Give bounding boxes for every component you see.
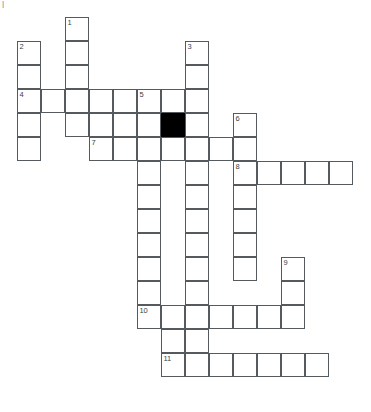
- crossword-cell[interactable]: 5: [137, 89, 161, 113]
- crossword-cell[interactable]: [185, 281, 209, 305]
- crossword-cell[interactable]: [113, 137, 137, 161]
- crossword-cell[interactable]: [185, 113, 209, 137]
- crossword-cell[interactable]: [185, 185, 209, 209]
- cell-number-4: 4: [20, 90, 24, 99]
- cell-number-9: 9: [284, 258, 288, 267]
- crossword-cell[interactable]: [137, 113, 161, 137]
- crossword-cell[interactable]: [185, 233, 209, 257]
- cell-number-7: 7: [92, 138, 96, 147]
- crossword-cell[interactable]: [329, 161, 353, 185]
- crossword-cell[interactable]: [113, 89, 137, 113]
- cell-number-2: 2: [20, 42, 24, 51]
- crossword-cell[interactable]: [185, 305, 209, 329]
- crossword-cell[interactable]: [305, 161, 329, 185]
- crossword-cell[interactable]: 6: [233, 113, 257, 137]
- crossword-cell[interactable]: 10: [137, 305, 161, 329]
- crossword-cell[interactable]: [65, 113, 89, 137]
- crossword-cell[interactable]: [17, 65, 41, 89]
- crossword-cell[interactable]: [161, 137, 185, 161]
- crossword-cell[interactable]: 9: [281, 257, 305, 281]
- crossword-cell[interactable]: 8: [233, 161, 257, 185]
- crossword-cell[interactable]: 3: [185, 41, 209, 65]
- crossword-cell[interactable]: [65, 65, 89, 89]
- cell-number-10: 10: [140, 306, 148, 315]
- crossword-cell[interactable]: [161, 305, 185, 329]
- cell-number-5: 5: [140, 90, 144, 99]
- crossword-cell[interactable]: [185, 65, 209, 89]
- crossword-cell[interactable]: [281, 281, 305, 305]
- crossword-cell[interactable]: [137, 161, 161, 185]
- crossword-cell[interactable]: [137, 281, 161, 305]
- cell-number-6: 6: [236, 114, 240, 123]
- crossword-cell[interactable]: [161, 329, 185, 353]
- crossword-cell[interactable]: [281, 305, 305, 329]
- crossword-cell[interactable]: 2: [17, 41, 41, 65]
- crossword-cell[interactable]: [89, 113, 113, 137]
- crossword-cell[interactable]: [233, 233, 257, 257]
- crossword-cell[interactable]: [137, 185, 161, 209]
- crossword-cell[interactable]: [233, 305, 257, 329]
- crossword-cell[interactable]: [17, 113, 41, 137]
- crossword-cell[interactable]: [65, 41, 89, 65]
- crossword-cell[interactable]: 1: [65, 17, 89, 41]
- crossword-cell[interactable]: [233, 353, 257, 377]
- crossword-cell[interactable]: [137, 209, 161, 233]
- crossword-cell[interactable]: [185, 257, 209, 281]
- crossword-cell[interactable]: [257, 353, 281, 377]
- crossword-cell[interactable]: [209, 305, 233, 329]
- crossword-cell[interactable]: [137, 137, 161, 161]
- crossword-cell[interactable]: [185, 89, 209, 113]
- crossword-cell[interactable]: 11: [161, 353, 185, 377]
- crossword-cell[interactable]: [185, 353, 209, 377]
- crossword-cell[interactable]: [209, 353, 233, 377]
- crossword-cell[interactable]: [233, 185, 257, 209]
- crossword-cell[interactable]: [185, 329, 209, 353]
- crossword-cell[interactable]: [233, 137, 257, 161]
- crossword-cell[interactable]: [257, 305, 281, 329]
- crossword-cell[interactable]: [17, 137, 41, 161]
- crossword-cell[interactable]: [209, 137, 233, 161]
- crossword-cell[interactable]: [89, 89, 113, 113]
- crossword-cell[interactable]: [233, 257, 257, 281]
- crossword-cell[interactable]: 7: [89, 137, 113, 161]
- crossword-cell[interactable]: [281, 353, 305, 377]
- crossword-cell[interactable]: [185, 137, 209, 161]
- cell-number-8: 8: [236, 162, 240, 171]
- crossword-cell[interactable]: [161, 89, 185, 113]
- crossword-cell[interactable]: [185, 209, 209, 233]
- crossword-cell[interactable]: [113, 113, 137, 137]
- crossword-cell[interactable]: [185, 161, 209, 185]
- crossword-blocked-cell: [161, 113, 185, 137]
- cell-number-1: 1: [68, 18, 72, 27]
- cell-number-3: 3: [188, 42, 192, 51]
- crossword-cell[interactable]: [281, 161, 305, 185]
- crossword-cell[interactable]: [305, 353, 329, 377]
- crossword-cell[interactable]: 4: [17, 89, 41, 113]
- cell-number-11: 11: [164, 354, 171, 363]
- crossword-cell[interactable]: [233, 209, 257, 233]
- crossword-cell[interactable]: [65, 89, 89, 113]
- crossword-cell[interactable]: [137, 257, 161, 281]
- crossword-cell[interactable]: [41, 89, 65, 113]
- crossword-cell[interactable]: [257, 161, 281, 185]
- crossword-grid[interactable]: 1234567891011: [0, 0, 371, 412]
- crossword-cell[interactable]: [137, 233, 161, 257]
- crossword-puzzle: | 1234567891011: [0, 0, 371, 412]
